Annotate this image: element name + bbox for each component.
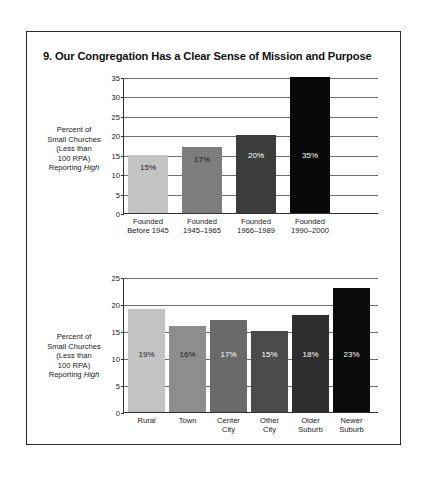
y-axis-tick-label: 0 (116, 409, 120, 418)
category-labels-chart-2: RuralTownCenterCityOtherCityOlderSuburbN… (124, 416, 378, 442)
bar-value-label: 23% (333, 350, 370, 359)
y-axis-label-line-2: Small Churches (47, 135, 101, 144)
bar-value-label: 18% (292, 350, 329, 359)
bar-value-label: 15% (251, 350, 288, 359)
y-axis-tick-label: 25 (112, 112, 120, 121)
category-label-line: Newer (341, 416, 363, 425)
category-label-line: Center (217, 416, 240, 425)
y-axis-tick-label: 5 (116, 190, 120, 199)
category-label-line: Other (260, 416, 279, 425)
category-label-line: Suburb (339, 425, 364, 434)
category-label-line: Before 1945 (127, 226, 168, 235)
y-axis-tick-mark (121, 413, 124, 414)
category-label-line: Suburb (298, 425, 323, 434)
bars-chart-1: 15%17%20%35% (124, 78, 378, 213)
y-axis-label-chart-2: Percent of Small Churches (Less than 100… (35, 332, 113, 380)
category-label-line: 1945–1965 (183, 226, 221, 235)
category-label-line: 1990–2000 (291, 226, 329, 235)
y-axis-label-line-5-emphasis: High (84, 163, 100, 172)
y-axis-tick-label: 30 (112, 93, 120, 102)
category-label-line: City (263, 425, 276, 434)
y-axis-tick-label: 15 (112, 151, 120, 160)
y-axis-label-line-3: (Less than (56, 351, 91, 360)
y-axis-tick-label: 20 (112, 301, 120, 310)
bar: 17% (210, 320, 247, 412)
bar-value-label: 16% (169, 350, 206, 359)
bar: 20% (236, 135, 276, 213)
bar-value-label: 20% (236, 151, 276, 160)
bar: 15% (128, 155, 168, 213)
bar-value-label: 17% (182, 155, 222, 164)
category-label-line: City (222, 425, 235, 434)
category-label-line: Older (301, 416, 320, 425)
y-axis-label-line-5-emphasis: High (84, 370, 100, 379)
x-axis-category-label: NewerSuburb (327, 416, 376, 435)
y-axis-label-line-5-prefix: Reporting (49, 370, 84, 379)
bar: 18% (292, 315, 329, 412)
y-axis-label-line-1: Percent of (57, 125, 92, 134)
bar-value-label: 19% (128, 350, 165, 359)
y-axis-tick-mark (121, 214, 124, 215)
bar: 17% (182, 147, 222, 213)
category-label-line: Founded (187, 217, 217, 226)
y-axis-label-line-4: 100 RPA) (58, 154, 90, 163)
y-axis-tick-label: 0 (116, 210, 120, 219)
y-axis-tick-label: 10 (112, 355, 120, 364)
category-labels-chart-1: FoundedBefore 1945Founded1945–1965Founde… (124, 217, 378, 243)
page-title: 9. Our Congregation Has a Clear Sense of… (43, 50, 388, 62)
y-axis-tick-label: 5 (116, 382, 120, 391)
y-axis-tick-label: 25 (112, 274, 120, 283)
bar-value-label: 17% (210, 350, 247, 359)
bar: 23% (333, 288, 370, 412)
y-axis-label-line-5-prefix: Reporting (49, 163, 84, 172)
bar: 15% (251, 331, 288, 412)
bar-value-label: 35% (290, 151, 330, 160)
y-axis-label-chart-1: Percent of Small Churches (Less than 100… (35, 125, 113, 173)
y-axis-label-line-4: 100 RPA) (58, 361, 90, 370)
bars-chart-2: 19%16%17%15%18%23% (124, 278, 378, 412)
y-axis-label-line-1: Percent of (57, 332, 92, 341)
category-label-line: Founded (133, 217, 163, 226)
y-axis-tick-label: 10 (112, 171, 120, 180)
x-axis-category-label: Founded1990–2000 (284, 217, 336, 236)
y-axis-tick-label: 20 (112, 132, 120, 141)
bar: 16% (169, 326, 206, 412)
x-axis-category-label: FoundedBefore 1945 (122, 217, 174, 236)
category-label-line: 1966–1989 (237, 226, 275, 235)
y-axis-tick-label: 15 (112, 328, 120, 337)
category-label-line: Founded (295, 217, 325, 226)
bar: 35% (290, 77, 330, 213)
category-label-line: Rural (137, 416, 155, 425)
y-axis-label-line-3: (Less than (56, 144, 91, 153)
y-axis-tick-label: 35 (112, 74, 120, 83)
bar-value-label: 15% (128, 163, 168, 172)
x-axis-category-label: Founded1966–1989 (230, 217, 282, 236)
chart-founded-year: Percent of Small Churches (Less than 100… (27, 72, 402, 267)
y-axis-label-line-2: Small Churches (47, 342, 101, 351)
category-label-line: Founded (241, 217, 271, 226)
bar: 19% (128, 309, 165, 412)
plot-area-chart-1: 05101520253035 15%17%20%35% FoundedBefor… (123, 78, 378, 214)
plot-area-chart-2: 0510152025 19%16%17%15%18%23% RuralTownC… (123, 278, 378, 413)
figure-page: 9. Our Congregation Has a Clear Sense of… (26, 31, 401, 445)
x-axis-category-label: Founded1945–1965 (176, 217, 228, 236)
chart-community-type: Percent of Small Churches (Less than 100… (27, 270, 402, 446)
category-label-line: Town (179, 416, 197, 425)
